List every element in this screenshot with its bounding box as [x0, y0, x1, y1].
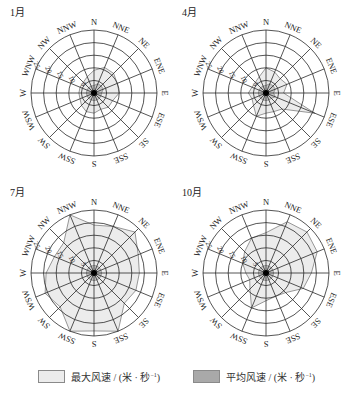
direction-label-s: S	[91, 159, 96, 169]
grid-spoke	[221, 48, 266, 93]
max-speed-swatch	[38, 370, 65, 383]
radial-tick-label: 10	[239, 75, 249, 85]
direction-label-sse: SSE	[112, 151, 129, 166]
direction-label-ese: ESE	[324, 111, 339, 129]
legend-item-avg-speed: 平均风速 / (米 · 秒−1)	[193, 369, 315, 384]
direction-label-n: N	[91, 197, 97, 207]
direction-label-sse: SSE	[284, 151, 301, 166]
radial-tick-label: 10	[67, 75, 77, 85]
radial-tick-label: 20	[43, 65, 53, 75]
grid-spoke	[49, 48, 94, 93]
radial-tick-label: 25	[204, 240, 214, 250]
radial-tick-label: 20	[215, 245, 225, 255]
legend-label-avg-speed: 平均风速 / (米 · 秒−1)	[226, 369, 315, 384]
direction-label-n: N	[263, 17, 269, 27]
direction-label-ne: NE	[309, 35, 324, 50]
center-dot	[91, 270, 97, 276]
radial-tick-label: 20	[215, 65, 225, 75]
direction-label-w: W	[190, 89, 200, 97]
direction-label-ene: ENE	[324, 56, 340, 75]
direction-label-wsw: WSW	[192, 289, 209, 312]
center-dot	[91, 90, 97, 96]
radial-tick-label: 25	[204, 60, 214, 70]
direction-label-n: N	[263, 197, 269, 207]
direction-label-se: SE	[137, 316, 151, 330]
center-dot	[263, 270, 269, 276]
direction-label-sse: SSE	[284, 331, 301, 346]
direction-label-s: S	[91, 339, 96, 349]
legend-label-max-speed: 最大风速 / (米 · 秒−1)	[71, 369, 160, 384]
direction-label-w: W	[18, 89, 28, 97]
legend: 最大风速 / (米 · 秒−1) 平均风速 / (米 · 秒−1)	[0, 369, 356, 389]
direction-label-e: E	[160, 90, 170, 95]
panel-title: 4月	[182, 7, 197, 18]
radial-tick-label: 25	[32, 60, 42, 70]
direction-label-ese: ESE	[152, 291, 167, 309]
wind-rose-1: 1月NNNENEENEEESESESSESSSWSWWSWWWNWNWNNW51…	[10, 7, 170, 169]
direction-label-se: SE	[137, 136, 151, 150]
direction-label-se: SE	[309, 316, 323, 330]
direction-label-s: S	[263, 159, 268, 169]
direction-label-sse: SSE	[112, 331, 129, 346]
grid-spoke	[94, 93, 139, 138]
direction-label-e: E	[332, 90, 342, 95]
wind-rose-2: 4月NNNENEENEEESESESSESSSWSWWSWWWNWNWNNW51…	[182, 7, 342, 169]
wind-rose-4: 10月NNNENEENEEESESESSESSSWSWWSWWWNWNWNNW5…	[182, 187, 342, 349]
panel-title: 1月	[10, 7, 25, 18]
legend-item-max-speed: 最大风速 / (米 · 秒−1)	[38, 369, 160, 384]
direction-label-ese: ESE	[152, 111, 167, 129]
wind-rose-grid: 1月NNNENEENEEESESESSESSSWSWWSWWWNWNWNNW51…	[0, 0, 356, 360]
grid-spoke	[49, 93, 94, 138]
radial-tick-label: 20	[43, 245, 53, 255]
direction-label-e: E	[160, 270, 170, 275]
radial-tick-label: 15	[227, 70, 237, 80]
direction-label-ene: ENE	[324, 236, 340, 255]
direction-label-se: SE	[309, 136, 323, 150]
direction-label-wsw: WSW	[20, 109, 37, 132]
direction-label-ne: NE	[137, 215, 152, 230]
direction-label-e: E	[332, 270, 342, 275]
direction-label-w: W	[18, 269, 28, 277]
direction-label-wsw: WSW	[20, 289, 37, 312]
panel-title: 10月	[182, 187, 202, 198]
panel-title: 7月	[10, 187, 25, 198]
direction-label-ene: ENE	[152, 56, 168, 75]
wind-rose-3: 7月NNNENEENEEESESESSESSSWSWWSWWWNWNWNNW51…	[10, 187, 170, 349]
radial-tick-label: 15	[55, 70, 65, 80]
direction-label-ne: NE	[309, 215, 324, 230]
avg-speed-swatch	[193, 370, 220, 383]
direction-label-wsw: WSW	[192, 109, 209, 132]
direction-label-n: N	[91, 17, 97, 27]
direction-label-ese: ESE	[324, 291, 339, 309]
direction-label-ene: ENE	[152, 236, 168, 255]
radial-tick-label: 15	[227, 250, 237, 260]
grid-spoke	[266, 48, 311, 93]
center-dot	[263, 90, 269, 96]
direction-label-w: W	[190, 269, 200, 277]
direction-label-ne: NE	[137, 35, 152, 50]
direction-label-s: S	[263, 339, 268, 349]
radial-tick-label: 25	[32, 240, 42, 250]
